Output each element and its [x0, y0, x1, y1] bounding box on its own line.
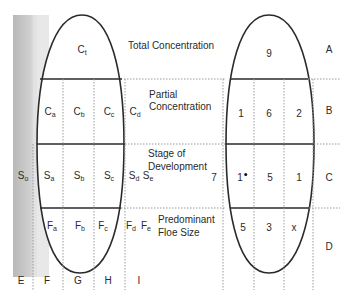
symbol-cd: Cd	[129, 106, 140, 121]
symbol-cc: Cc	[104, 106, 115, 121]
value-partial-a: 1	[238, 108, 244, 120]
symbol-sb: Sb	[74, 170, 85, 185]
symbol-ct: Ct	[77, 44, 86, 59]
value-floe-c: x	[292, 222, 297, 234]
label-stage-line1: Stage of	[148, 148, 185, 160]
symbol-sc: Sc	[104, 170, 114, 185]
value-total-concentration: 9	[266, 48, 272, 60]
label-stage-line2: Development	[148, 161, 207, 173]
row-label-c: C	[325, 172, 332, 184]
dot-marker	[244, 173, 247, 176]
symbol-sa: Sa	[44, 170, 55, 185]
label-floe-line2: Floe Size	[158, 227, 200, 239]
symbol-fd: Fd	[126, 220, 136, 235]
column-label-h: H	[104, 275, 111, 287]
value-stage-b: 5	[267, 172, 273, 184]
shaded-region	[13, 15, 49, 277]
column-label-f: F	[44, 275, 50, 287]
label-total-concentration: Total Concentration	[128, 40, 214, 52]
value-stage-a: 1	[237, 172, 247, 184]
symbol-fb: Fb	[75, 220, 85, 235]
symbol-ca: Ca	[44, 106, 55, 121]
column-label-i: I	[138, 275, 141, 287]
label-partial-line1: Partial	[149, 89, 177, 101]
column-label-g: G	[74, 275, 82, 287]
value-partial-b: 6	[266, 108, 272, 120]
symbol-sd: Sd	[129, 170, 140, 185]
row-label-d: D	[325, 241, 332, 253]
label-partial-line2: Concentration	[149, 101, 211, 113]
value-floe-a: 5	[240, 222, 246, 234]
symbol-fa: Fa	[47, 220, 57, 235]
value-partial-c: 2	[296, 108, 302, 120]
value-stage-c: 1	[296, 172, 302, 184]
column-label-e: E	[18, 275, 25, 287]
value-floe-b: 3	[266, 222, 272, 234]
symbol-fe: Fe	[141, 220, 151, 235]
symbol-fc: Fc	[98, 220, 108, 235]
symbol-so: So	[18, 170, 29, 185]
label-floe-line1: Predominant	[158, 214, 215, 226]
symbol-cb: Cb	[73, 106, 84, 121]
value-stage-outside: 7	[211, 172, 217, 184]
row-label-a: A	[326, 44, 333, 56]
row-label-b: B	[326, 105, 333, 117]
